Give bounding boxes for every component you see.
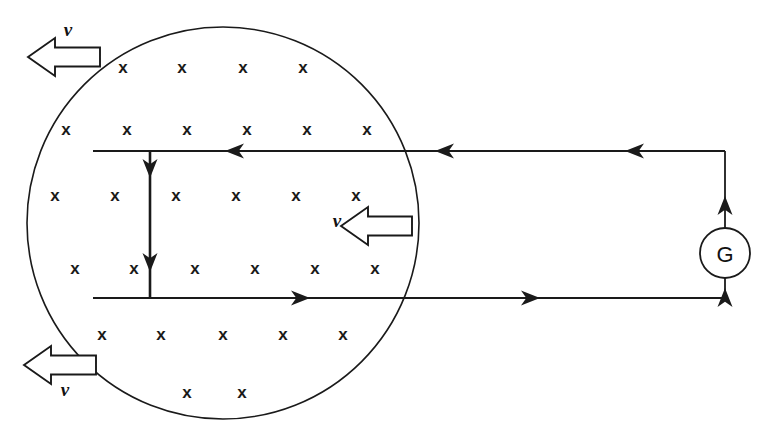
field-x-mark: x: [177, 58, 187, 77]
field-x-mark: x: [370, 259, 380, 278]
field-x-mark: x: [129, 259, 139, 278]
field-x-mark: x: [250, 259, 260, 278]
field-x-mark: x: [97, 325, 107, 344]
field-x-mark: x: [302, 120, 312, 139]
field-x-mark: x: [110, 186, 120, 205]
field-x-mark: x: [238, 58, 248, 77]
field-x-mark: x: [156, 325, 166, 344]
field-x-mark: x: [231, 186, 241, 205]
current-direction-arrowheads: [143, 144, 733, 308]
velocity-arrow-top-left-label: v: [64, 19, 73, 40]
velocity-arrow-middle: [341, 207, 412, 245]
field-into-page-marks: xxxxxxxxxxxxxxxxxxxxxxxxxxxxx: [50, 58, 380, 402]
field-x-mark: x: [218, 325, 228, 344]
field-x-mark: x: [298, 58, 308, 77]
velocity-arrow-bottom-left: [24, 346, 96, 384]
field-x-mark: x: [171, 186, 181, 205]
galvanometer: G: [700, 228, 750, 278]
galvanometer-label: G: [716, 242, 733, 267]
field-x-mark: x: [61, 120, 71, 139]
field-x-mark: x: [237, 383, 247, 402]
field-x-mark: x: [50, 186, 60, 205]
diagram-canvas: xxxxxxxxxxxxxxxxxxxxxxxxxxxxx G vvv: [0, 0, 778, 439]
field-x-mark: x: [182, 383, 192, 402]
field-x-mark: x: [182, 120, 192, 139]
velocity-arrow-middle-label: v: [333, 210, 342, 231]
velocity-arrow-top-left: [28, 38, 100, 76]
field-x-mark: x: [351, 186, 361, 205]
field-x-mark: x: [362, 120, 372, 139]
velocity-arrow-bottom-left-label: v: [61, 379, 70, 400]
field-x-mark: x: [122, 120, 132, 139]
field-x-mark: x: [338, 325, 348, 344]
physics-diagram: xxxxxxxxxxxxxxxxxxxxxxxxxxxxx G vvv: [0, 0, 778, 439]
field-x-mark: x: [242, 120, 252, 139]
field-x-mark: x: [278, 325, 288, 344]
field-x-mark: x: [190, 259, 200, 278]
field-x-mark: x: [310, 259, 320, 278]
field-x-mark: x: [291, 186, 301, 205]
field-x-mark: x: [118, 58, 128, 77]
field-x-mark: x: [70, 259, 80, 278]
